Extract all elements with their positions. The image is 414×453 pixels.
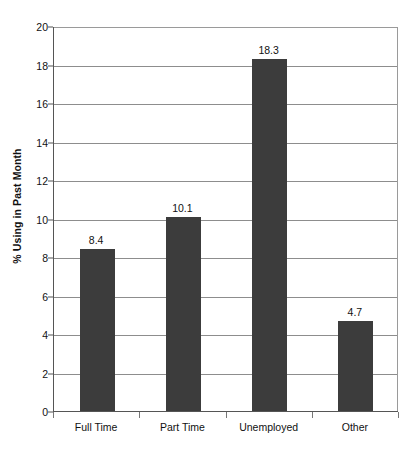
gridline xyxy=(54,66,398,67)
y-axis-tick-label: 2 xyxy=(22,368,48,380)
bar[interactable] xyxy=(80,249,115,411)
gridline xyxy=(54,104,398,105)
x-axis-category-label: Full Time xyxy=(51,421,141,433)
y-axis-tick-label: 14 xyxy=(22,137,48,149)
gridline xyxy=(54,27,398,28)
y-axis-tick-label: 12 xyxy=(22,175,48,187)
gridline xyxy=(54,143,398,144)
bar[interactable] xyxy=(252,59,287,411)
gridline xyxy=(54,220,398,221)
x-axis-tick-mark xyxy=(53,412,54,418)
y-axis-tick-labels: 02468101214161820 xyxy=(18,0,48,453)
x-axis-tick-mark xyxy=(398,412,399,418)
gridline xyxy=(54,181,398,182)
bar[interactable] xyxy=(166,217,201,411)
plot-area xyxy=(53,27,398,412)
y-axis-tick-label: 20 xyxy=(22,21,48,33)
y-axis-title: % Using in Past Month xyxy=(6,0,28,412)
y-axis-tick-label: 8 xyxy=(22,252,48,264)
y-axis-tick-label: 16 xyxy=(22,98,48,110)
x-axis-category-label: Other xyxy=(310,421,400,433)
x-axis-tick-mark xyxy=(139,412,140,418)
y-axis-tick-label: 10 xyxy=(22,214,48,226)
x-axis-category-label: Unemployed xyxy=(224,421,314,433)
x-axis-category-label: Part Time xyxy=(137,421,227,433)
y-axis-tick-label: 6 xyxy=(22,291,48,303)
x-axis-tick-mark xyxy=(226,412,227,418)
y-axis-tick-label: 4 xyxy=(22,329,48,341)
bar-chart: % Using in Past Month 02468101214161820 … xyxy=(0,0,414,453)
bar[interactable] xyxy=(338,321,373,411)
y-axis-tick-label: 18 xyxy=(22,60,48,72)
y-axis-title-text: % Using in Past Month xyxy=(11,148,23,263)
y-axis-tick-label: 0 xyxy=(22,406,48,418)
x-axis-tick-mark xyxy=(312,412,313,418)
